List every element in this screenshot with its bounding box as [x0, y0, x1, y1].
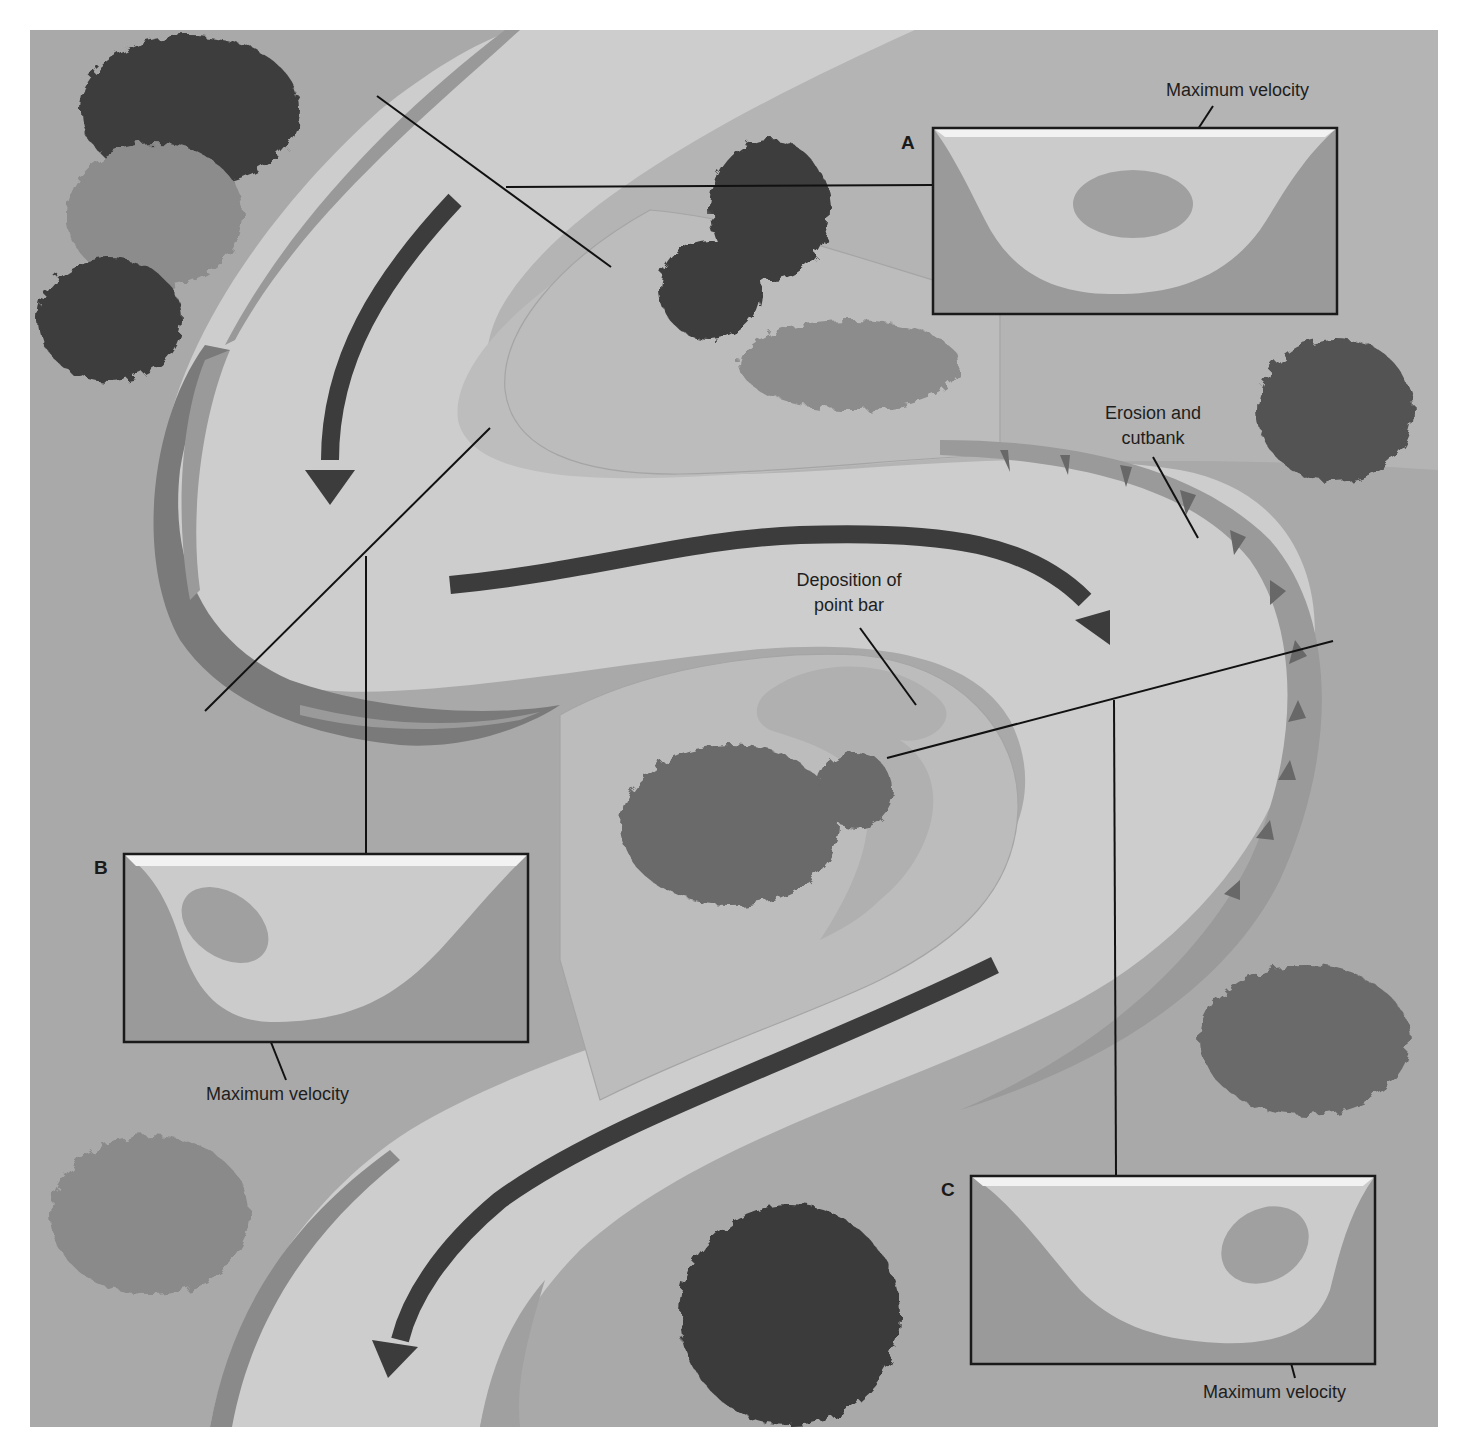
tree-mid-se — [1200, 965, 1410, 1115]
diagram-canvas — [0, 0, 1463, 1455]
tree-dark-center-2 — [660, 240, 760, 340]
meander-diagram: A B C Maximum velocity Maximum velocity … — [0, 0, 1463, 1455]
max-velocity-label-b: Maximum velocity — [206, 1082, 349, 1106]
max-velocity-label-c: Maximum velocity — [1203, 1380, 1346, 1404]
tree-light-sw — [50, 1135, 250, 1295]
deposition-label-line2: point bar — [782, 593, 916, 617]
tree-light-center — [740, 320, 960, 410]
max-velocity-zone-a — [1073, 170, 1193, 238]
erosion-cutbank-label: Erosion and cutbank — [1094, 401, 1212, 450]
section-c-letter: C — [941, 1179, 955, 1201]
tree-dark-east — [1257, 338, 1413, 482]
tree-mid-pointbar-2 — [817, 752, 893, 828]
section-a-letter: A — [901, 132, 915, 154]
cross-section-c — [971, 1176, 1375, 1364]
deposition-label-line1: Deposition of — [782, 568, 916, 592]
tree-dark-w — [38, 258, 182, 382]
deposition-point-bar-label: Deposition of point bar — [782, 568, 916, 617]
erosion-label-line1: Erosion and — [1094, 401, 1212, 425]
tree-dark-south — [680, 1205, 900, 1425]
erosion-label-line2: cutbank — [1094, 426, 1212, 450]
max-velocity-label-a: Maximum velocity — [1166, 78, 1309, 102]
section-b-letter: B — [94, 857, 108, 879]
tree-mid-pointbar — [620, 745, 840, 905]
cross-section-b — [124, 854, 528, 1042]
cross-section-a — [933, 128, 1337, 314]
